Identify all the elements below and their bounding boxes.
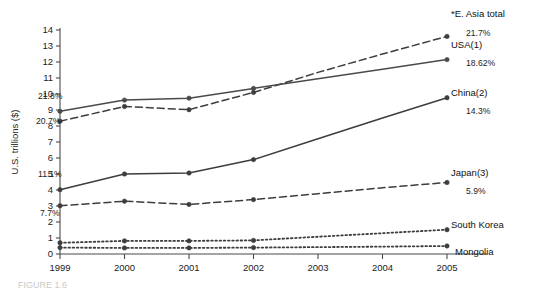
y-axis-tick-label: 4 [48, 184, 53, 195]
x-axis-tick-label: 2004 [372, 262, 393, 273]
series-marker [445, 57, 449, 61]
line-chart: 01234567891011121314U.S. trillions ($)19… [0, 0, 540, 290]
series-value-label-usa-1: 18.62% [466, 58, 496, 68]
series-label-e-asia-total: *E. Asia total [451, 8, 505, 19]
series-marker [445, 244, 449, 248]
y-axis-tick-label: 13 [42, 40, 53, 51]
series-marker [122, 239, 126, 243]
y-axis-tick-label: 14 [42, 24, 53, 35]
x-axis-tick-label: 1999 [49, 262, 70, 273]
series-value-label-e-asia-total: 21.7% [466, 28, 491, 38]
series-marker [445, 95, 449, 99]
series-label-china-2: China(2) [451, 87, 487, 98]
x-axis-tick-label: 2001 [178, 262, 199, 273]
x-axis-tick-label: 2002 [243, 262, 264, 273]
series-marker [122, 104, 126, 108]
series-marker [187, 239, 191, 243]
x-axis-tick-label: 2000 [114, 262, 135, 273]
series-marker [251, 238, 255, 242]
series-marker [122, 98, 126, 102]
x-axis-tick-label: 2005 [436, 262, 457, 273]
series-marker [187, 96, 191, 100]
series-marker [251, 197, 255, 201]
series-marker [58, 241, 62, 245]
series-marker [251, 157, 255, 161]
series-line-china-2 [60, 98, 447, 190]
series-marker [445, 34, 449, 38]
y-axis-tick-label: 1 [48, 232, 53, 243]
start-annotation-7-7: 7.7% [40, 208, 60, 218]
start-annotation-11-1: 11.1% [38, 169, 62, 179]
y-axis-tick-label: 12 [42, 56, 53, 67]
y-axis-tick-label: 11 [43, 72, 53, 83]
figure-container: 01234567891011121314U.S. trillions ($)19… [0, 0, 540, 290]
series-marker [187, 246, 191, 250]
series-marker [58, 245, 62, 249]
series-marker [122, 172, 126, 176]
series-marker [251, 86, 255, 90]
series-label-mongolia: Mongolia [455, 246, 494, 257]
series-marker [445, 180, 449, 184]
series-value-label-china-2: 14.3% [466, 106, 491, 116]
series-label-usa-1: USA(1) [451, 39, 482, 50]
series-line-e-asia-total [60, 36, 447, 121]
series-marker [445, 227, 449, 231]
y-axis-tick-label: 9 [48, 104, 53, 115]
series-marker [122, 246, 126, 250]
y-axis-tick-label: 7 [48, 136, 53, 147]
series-marker [187, 202, 191, 206]
series-line-usa-1 [60, 60, 447, 112]
series-marker [58, 187, 62, 191]
series-label-south-korea: South Korea [451, 219, 505, 230]
y-axis-title: U.S. trillions ($) [9, 110, 20, 175]
series-marker [251, 245, 255, 249]
series-label-japan-3: Japan(3) [451, 167, 489, 178]
series-marker [58, 109, 62, 113]
series-marker [187, 171, 191, 175]
start-annotation-20-7: 20.7% [36, 116, 61, 126]
start-annotation-21-8: 21.8% [38, 91, 63, 101]
series-marker [122, 199, 126, 203]
y-axis-tick-label: 2 [48, 216, 53, 227]
y-axis-tick-label: 6 [48, 152, 53, 163]
series-value-label-japan-3: 5.9% [466, 186, 486, 196]
y-axis-tick-label: 0 [48, 248, 53, 259]
series-line-japan-3 [60, 182, 447, 205]
figure-caption: FIGURE 1.6 [18, 280, 67, 290]
series-marker [187, 107, 191, 111]
x-axis-tick-label: 2003 [307, 262, 328, 273]
